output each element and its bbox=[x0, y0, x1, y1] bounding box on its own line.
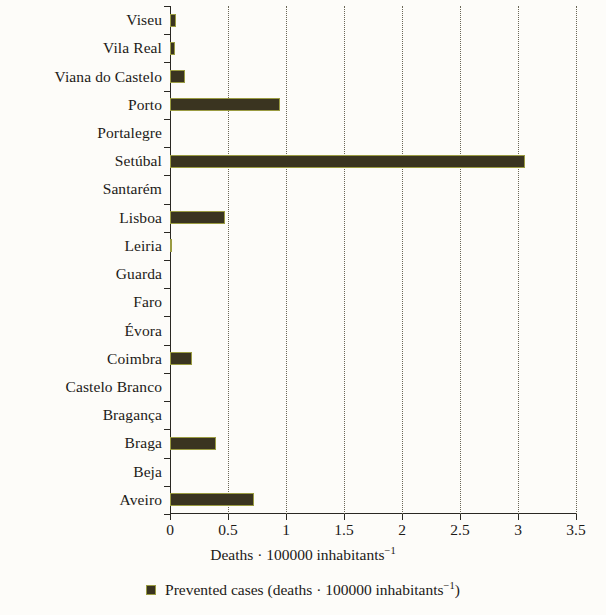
x-axis-tick-label-0-5: 0.5 bbox=[218, 521, 237, 539]
y-axis-label--vora: Évora bbox=[0, 323, 162, 339]
bar-row bbox=[170, 288, 576, 316]
bar-braga bbox=[170, 437, 216, 450]
bar-row bbox=[170, 458, 576, 486]
bar-leiria bbox=[170, 239, 172, 252]
y-axis-tick bbox=[164, 514, 170, 515]
legend-label-main: Prevented cases (deaths · 100000 inhabit… bbox=[165, 581, 444, 598]
y-axis-tick bbox=[164, 6, 170, 7]
x-axis-tick-label-2-5: 2.5 bbox=[450, 521, 469, 539]
x-axis-tick bbox=[344, 514, 345, 520]
y-axis-label-bragan-a: Bragança bbox=[0, 407, 162, 423]
bar-vila-real bbox=[170, 42, 175, 55]
plot-area bbox=[170, 6, 576, 514]
y-axis-label-viseu: Viseu bbox=[0, 12, 162, 28]
y-axis-label-lisboa: Lisboa bbox=[0, 210, 162, 226]
bar-set-bal bbox=[170, 155, 525, 168]
bar-row bbox=[170, 345, 576, 373]
y-axis-tick bbox=[164, 486, 170, 487]
y-axis-category-labels: ViseuVila RealViana do CasteloPortoPorta… bbox=[0, 6, 162, 514]
y-axis-tick bbox=[164, 232, 170, 233]
bar-row bbox=[170, 34, 576, 62]
bar-viseu bbox=[170, 14, 176, 27]
y-axis-label-beja: Beja bbox=[0, 464, 162, 480]
y-axis-tick bbox=[164, 429, 170, 430]
legend-label-tail: ) bbox=[455, 581, 460, 598]
x-axis-tick bbox=[460, 514, 461, 520]
y-axis-label-set-bal: Setúbal bbox=[0, 153, 162, 169]
y-axis-label-braga: Braga bbox=[0, 435, 162, 451]
bar-row bbox=[170, 6, 576, 34]
bar-row bbox=[170, 232, 576, 260]
x-axis-tick bbox=[228, 514, 229, 520]
bar-row bbox=[170, 316, 576, 344]
legend-item-label: Prevented cases (deaths · 100000 inhabit… bbox=[165, 580, 460, 599]
bar-row bbox=[170, 175, 576, 203]
y-axis-tick bbox=[164, 458, 170, 459]
x-axis-tick bbox=[170, 514, 171, 520]
bar-row bbox=[170, 147, 576, 175]
y-axis-label-faro: Faro bbox=[0, 294, 162, 310]
y-axis-label-viana-do-castelo: Viana do Castelo bbox=[0, 69, 162, 85]
x-axis-tick-label-1-5: 1.5 bbox=[334, 521, 353, 539]
x-axis-tick bbox=[576, 514, 577, 520]
x-axis-title: Deaths · 100000 inhabitants−1 bbox=[0, 545, 606, 564]
x-axis-tick-label-0: 0 bbox=[166, 521, 174, 539]
bar-porto bbox=[170, 98, 280, 111]
gridline-3-5 bbox=[576, 6, 577, 514]
x-axis-tick-label-3: 3 bbox=[514, 521, 522, 539]
y-axis-label-santar-m: Santarém bbox=[0, 181, 162, 197]
y-axis-label-guarda: Guarda bbox=[0, 266, 162, 282]
x-axis-tick bbox=[402, 514, 403, 520]
x-axis-tick-label-3-5: 3.5 bbox=[566, 521, 585, 539]
x-axis-tick-label-2: 2 bbox=[398, 521, 406, 539]
bar-series-prevented-cases bbox=[170, 6, 576, 514]
bar-viana-do-castelo bbox=[170, 70, 185, 83]
y-axis-label-portalegre: Portalegre bbox=[0, 125, 162, 141]
chart-legend: Prevented cases (deaths · 100000 inhabit… bbox=[0, 580, 606, 599]
y-axis-tick bbox=[164, 260, 170, 261]
bar-row bbox=[170, 119, 576, 147]
y-axis-tick bbox=[164, 288, 170, 289]
bar-row bbox=[170, 429, 576, 457]
y-axis-label-coimbra: Coimbra bbox=[0, 351, 162, 367]
bar-row bbox=[170, 260, 576, 288]
bar-row bbox=[170, 91, 576, 119]
y-axis-tick bbox=[164, 316, 170, 317]
y-axis-tick bbox=[164, 401, 170, 402]
y-axis-tick bbox=[164, 373, 170, 374]
y-axis-label-porto: Porto bbox=[0, 97, 162, 113]
y-axis-label-castelo-branco: Castelo Branco bbox=[0, 379, 162, 395]
bar-lisboa bbox=[170, 211, 225, 224]
y-axis-label-aveiro: Aveiro bbox=[0, 492, 162, 508]
y-axis-tick bbox=[164, 91, 170, 92]
chart-figure: ViseuVila RealViana do CasteloPortoPorta… bbox=[0, 0, 606, 615]
bar-row bbox=[170, 401, 576, 429]
y-axis-label-vila-real: Vila Real bbox=[0, 40, 162, 56]
y-axis-tick bbox=[164, 204, 170, 205]
y-axis-tick bbox=[164, 147, 170, 148]
x-axis-title-main: Deaths · 100000 inhabitants bbox=[210, 546, 384, 563]
bar-aveiro bbox=[170, 493, 254, 506]
y-axis-tick bbox=[164, 119, 170, 120]
x-axis-tick bbox=[518, 514, 519, 520]
legend-label-exponent: −1 bbox=[444, 580, 455, 591]
bar-row bbox=[170, 204, 576, 232]
bar-row bbox=[170, 62, 576, 90]
y-axis-tick bbox=[164, 34, 170, 35]
x-axis-title-exponent: −1 bbox=[385, 545, 396, 556]
bar-row bbox=[170, 486, 576, 514]
y-axis-tick bbox=[164, 62, 170, 63]
y-axis-tick bbox=[164, 175, 170, 176]
y-axis-label-leiria: Leiria bbox=[0, 238, 162, 254]
x-axis-tick bbox=[286, 514, 287, 520]
legend-swatch-icon bbox=[146, 585, 156, 595]
y-axis-tick bbox=[164, 345, 170, 346]
x-axis-tick-label-1: 1 bbox=[282, 521, 290, 539]
bar-row bbox=[170, 373, 576, 401]
bar-coimbra bbox=[170, 352, 192, 365]
